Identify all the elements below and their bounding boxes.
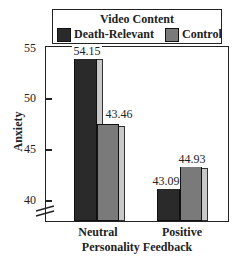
- x-category-positive: Positive: [152, 225, 212, 240]
- value-label-neutral-death: 54.15: [72, 44, 102, 59]
- x-category-neutral: Neutral: [68, 225, 128, 240]
- legend-label-death-relevant: Death-Relevant: [74, 27, 154, 42]
- bar-positive-death-relevant: [157, 187, 180, 221]
- value-label-positive-control: 44.93: [177, 152, 207, 167]
- ytick-45: [45, 149, 52, 151]
- legend-swatch-death-relevant: [57, 28, 71, 42]
- legend-swatch-control: [165, 28, 179, 42]
- axis-break-icon: [34, 204, 56, 218]
- y-axis-label: Anxiety: [11, 102, 26, 162]
- value-label-neutral-control: 43.46: [104, 107, 134, 122]
- bar-side-neutral-control: [118, 126, 125, 221]
- ytick-label-55: 55: [14, 41, 36, 56]
- ytick-label-40: 40: [14, 193, 36, 208]
- bar-positive-control: [180, 166, 202, 221]
- ytick-40: [45, 200, 52, 202]
- chart-root: Video Content Death-Relevant Control 55 …: [0, 0, 241, 259]
- legend-item-death-relevant: Death-Relevant: [57, 27, 154, 42]
- legend-item-control: Control: [165, 27, 222, 42]
- bar-neutral-control: [97, 124, 119, 221]
- value-label-positive-death: 43.09: [151, 174, 181, 189]
- legend-title: Video Content: [53, 12, 221, 27]
- bar-neutral-death-relevant: [74, 57, 97, 221]
- x-axis-label: Personality Feedback: [45, 240, 229, 255]
- legend: Video Content Death-Relevant Control: [52, 9, 222, 44]
- bar-side-positive-control: [201, 168, 208, 221]
- legend-label-control: Control: [182, 27, 222, 42]
- ytick-50: [45, 98, 52, 100]
